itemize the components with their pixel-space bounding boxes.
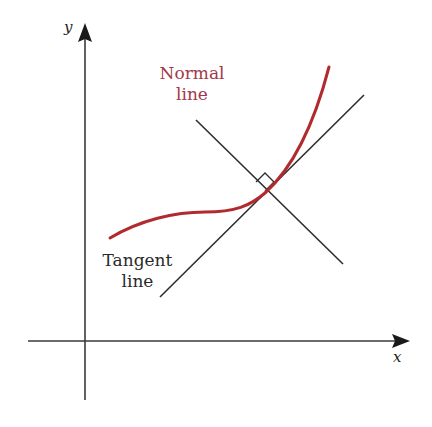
normal-label-line1: Normal — [152, 65, 232, 82]
tangent-label-line2: line — [95, 273, 180, 290]
x-axis-label: x — [393, 350, 401, 365]
normal-line — [196, 120, 343, 264]
normal-line-label: Normal line — [152, 65, 232, 103]
tangent-line-label: Tangent line — [95, 252, 180, 290]
y-axis-label: y — [64, 20, 72, 35]
tangent-label-line1: Tangent — [95, 252, 180, 269]
normal-label-line2: line — [152, 86, 232, 103]
